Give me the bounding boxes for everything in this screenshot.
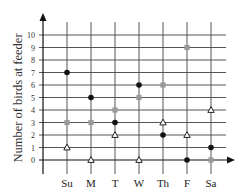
- y-axis-label: Number of birds at feeder: [11, 33, 25, 163]
- y-tick-label: 1: [31, 144, 35, 153]
- square-marker-icon: [88, 120, 93, 125]
- y-tick-label: 0: [31, 156, 35, 165]
- x-category-label: F: [184, 177, 190, 189]
- circle-marker-icon: [136, 82, 142, 88]
- x-category-label: Su: [61, 177, 73, 189]
- x-axis-arrow-icon: [227, 157, 235, 164]
- circle-marker-icon: [208, 145, 214, 151]
- y-tick-label: 5: [31, 94, 35, 103]
- square-marker-icon: [160, 82, 165, 87]
- square-marker-icon: [64, 120, 69, 125]
- circle-marker-icon: [88, 95, 94, 101]
- x-category-label: W: [134, 177, 145, 189]
- circle-marker-icon: [160, 132, 166, 138]
- x-category-labels: SuMTWThFSa: [61, 177, 216, 189]
- y-tick-label: 2: [31, 131, 35, 140]
- circle-marker-icon: [112, 120, 118, 126]
- y-tick-label: 7: [31, 69, 35, 78]
- square-marker-icon: [112, 107, 117, 112]
- y-tick-label: 9: [31, 44, 35, 53]
- square-marker-icon: [136, 95, 141, 100]
- square-marker-icon: [208, 157, 213, 162]
- square-marker-icon: [184, 45, 189, 50]
- y-tick-label: 8: [31, 56, 35, 65]
- x-category-label: Sa: [206, 177, 217, 189]
- y-tick-label: 3: [31, 119, 35, 128]
- y-tick-label: 10: [27, 31, 35, 40]
- circle-marker-icon: [64, 70, 70, 76]
- circle-marker-icon: [184, 157, 190, 163]
- y-tick-labels: 012345678910: [27, 31, 35, 165]
- y-axis-arrow-icon: [40, 13, 47, 21]
- y-tick-label: 6: [31, 81, 35, 90]
- x-category-label: Th: [157, 177, 170, 189]
- bird-feeder-chart: 012345678910 SuMTWThFSa Number of birds …: [0, 0, 244, 194]
- y-tick-label: 4: [31, 106, 35, 115]
- grid-lines: [39, 22, 226, 174]
- x-category-label: T: [112, 177, 119, 189]
- x-category-label: M: [86, 177, 96, 189]
